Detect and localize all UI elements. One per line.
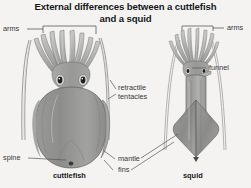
squid-fin-left [173,100,196,157]
label-arms-left: arms [3,25,19,34]
squid-fin-right [196,100,219,157]
squid-illustration [164,26,226,162]
figure-title: External differences between a cuttlefis… [0,1,251,24]
label-retractile-tentacles: retractile tentacles [118,83,147,102]
label-tentacles: tentacles [118,92,147,101]
caption-squid: squid [183,172,203,181]
label-retractile: retractile [118,83,146,92]
label-arms-right: arms [227,24,243,33]
figure-title-line1: External differences between a cuttlefis… [0,1,251,13]
cuttlefish-illustration [22,26,110,168]
retractile-tentacles-leader [110,80,116,89]
figure-title-line2: and a squid [0,13,251,25]
label-spine: spine [3,154,20,163]
label-funnel: funnel [209,64,229,73]
mantle-leader-right [141,134,178,158]
label-fins: fins [118,166,129,175]
caption-cuttlefish: cuttlefish [53,172,86,181]
label-mantle: mantle [118,155,140,164]
mantle-leader-left [103,150,115,159]
cuttlefish-spine-marker [69,162,74,166]
fins-leader-left [104,160,113,170]
squid-tail-tip [193,157,199,162]
